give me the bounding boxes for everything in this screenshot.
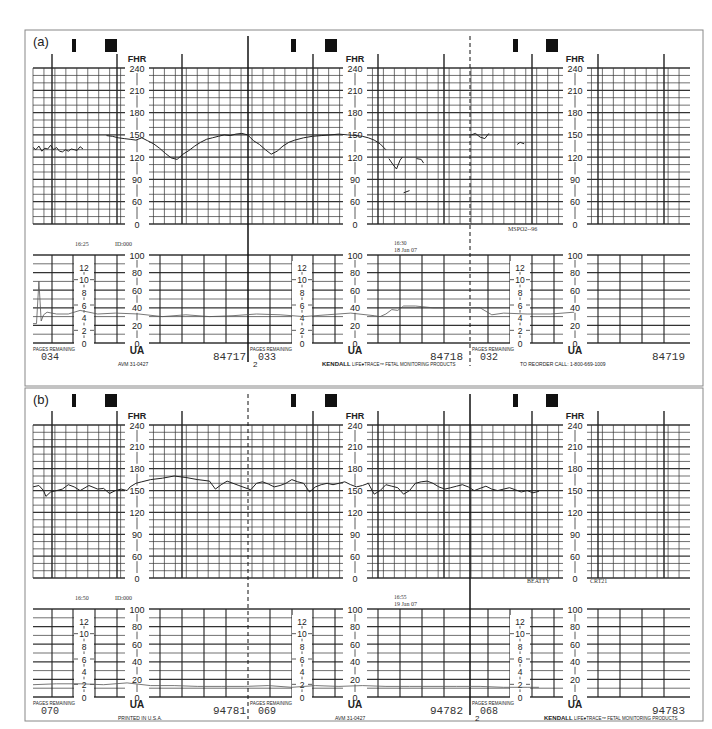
svg-text:150: 150	[567, 486, 582, 496]
event-marker-block	[513, 39, 518, 52]
svg-text:UA: UA	[130, 345, 144, 356]
svg-text:0: 0	[134, 220, 139, 230]
svg-text:60: 60	[350, 286, 360, 296]
svg-text:4: 4	[82, 667, 87, 677]
ua-axis-labels: 100806040200UA	[563, 604, 587, 710]
svg-text:AVM 31-0427: AVM 31-0427	[335, 715, 365, 721]
time-stamp-2: 16:30	[394, 240, 407, 246]
svg-text:40: 40	[570, 657, 580, 667]
svg-text:LIFE♥TRACE™ FETAL MONITORING P: LIFE♥TRACE™ FETAL MONITORING PRODUCTS	[352, 362, 456, 367]
svg-text:KENDALL: KENDALL	[322, 361, 351, 367]
svg-text:60: 60	[132, 197, 142, 207]
beatty-note: BEATTY	[527, 578, 551, 584]
svg-text:AVM 31-0427: AVM 31-0427	[118, 361, 148, 367]
event-marker-block	[325, 39, 337, 52]
svg-text:90: 90	[132, 175, 142, 185]
ua-axis-labels: 100806040200UA	[343, 604, 367, 710]
svg-text:150: 150	[567, 130, 582, 140]
time-stamp-2: 16:55	[394, 594, 407, 600]
svg-text:12: 12	[297, 263, 307, 273]
svg-text:6: 6	[300, 301, 305, 311]
svg-text:UA: UA	[348, 699, 362, 710]
svg-text:12: 12	[79, 263, 89, 273]
svg-text:0: 0	[572, 574, 577, 584]
svg-text:0: 0	[352, 220, 357, 230]
svg-text:10: 10	[79, 275, 89, 285]
svg-text:0: 0	[518, 339, 523, 349]
svg-text:120: 120	[129, 153, 144, 163]
svg-text:60: 60	[570, 552, 580, 562]
svg-text:0: 0	[572, 220, 577, 230]
svg-text:84717: 84717	[213, 351, 246, 363]
svg-text:068: 068	[480, 706, 498, 717]
time-stamp: 16:50	[75, 595, 89, 601]
svg-text:180: 180	[129, 464, 144, 474]
svg-text:0: 0	[82, 693, 87, 703]
svg-text:8: 8	[82, 288, 87, 298]
svg-text:FHR: FHR	[346, 54, 365, 64]
svg-text:90: 90	[132, 530, 142, 540]
svg-text:240: 240	[347, 421, 362, 431]
svg-text:0: 0	[518, 693, 523, 703]
svg-text:FHR: FHR	[566, 411, 585, 421]
svg-text:033: 033	[258, 352, 276, 363]
svg-text:210: 210	[347, 86, 362, 96]
svg-text:8: 8	[300, 642, 305, 652]
svg-text:40: 40	[570, 303, 580, 313]
ua-axis-labels: 100806040200UA	[125, 250, 149, 356]
svg-text:2: 2	[300, 680, 305, 690]
fhr-axis-labels: FHR24021018015012090600	[563, 411, 587, 584]
svg-text:4: 4	[518, 313, 523, 323]
svg-text:120: 120	[567, 508, 582, 518]
svg-text:10: 10	[515, 629, 525, 639]
id-stamp: ID:000	[115, 595, 132, 601]
svg-text:12: 12	[79, 617, 89, 627]
svg-text:150: 150	[129, 486, 144, 496]
date-stamp: 18 Jan 07	[394, 247, 417, 253]
svg-text:PRINTED IN U.S.A.: PRINTED IN U.S.A.	[118, 715, 162, 721]
svg-text:60: 60	[132, 552, 142, 562]
svg-text:8: 8	[518, 288, 523, 298]
event-marker-block	[105, 394, 117, 407]
svg-text:UA: UA	[568, 699, 582, 710]
svg-text:2: 2	[518, 326, 523, 336]
svg-text:FHR: FHR	[346, 411, 365, 421]
svg-text:210: 210	[347, 442, 362, 452]
svg-text:210: 210	[567, 86, 582, 96]
svg-text:150: 150	[347, 486, 362, 496]
svg-text:034: 034	[41, 352, 59, 363]
mmhg-scale-labels: 121086420	[292, 615, 312, 703]
spo2-note: MSPO2--96	[508, 226, 537, 232]
svg-text:60: 60	[570, 197, 580, 207]
svg-text:100: 100	[347, 605, 362, 615]
svg-text:100: 100	[129, 251, 144, 261]
svg-text:180: 180	[567, 464, 582, 474]
mmhg-scale-labels: 121086420	[74, 261, 94, 349]
svg-text:0: 0	[300, 693, 305, 703]
svg-text:0: 0	[82, 339, 87, 349]
date-stamp: 19 Jan 07	[394, 601, 417, 607]
svg-text:TO REORDER CALL: 1-800-669-100: TO REORDER CALL: 1-800-669-1009	[520, 361, 606, 367]
fhr-axis-labels: FHR24021018015012090600	[343, 54, 367, 230]
svg-text:100: 100	[567, 605, 582, 615]
svg-text:210: 210	[129, 86, 144, 96]
svg-text:2: 2	[82, 680, 87, 690]
svg-text:2: 2	[253, 360, 258, 369]
mmhg-scale-labels: 121086420	[510, 261, 530, 349]
svg-text:8: 8	[82, 642, 87, 652]
svg-text:2: 2	[82, 326, 87, 336]
svg-text:2: 2	[300, 326, 305, 336]
svg-text:240: 240	[347, 64, 362, 74]
event-marker-block	[546, 39, 558, 52]
svg-text:80: 80	[570, 268, 580, 278]
svg-text:070: 070	[41, 706, 59, 717]
svg-text:60: 60	[132, 640, 142, 650]
fhr-axis-labels: FHR24021018015012090600	[563, 54, 587, 230]
svg-text:4: 4	[518, 667, 523, 677]
svg-text:240: 240	[129, 64, 144, 74]
svg-text:120: 120	[567, 153, 582, 163]
svg-text:180: 180	[347, 108, 362, 118]
ctg-figure: (a)FHR24021018015012090600FHR24021018015…	[0, 0, 712, 729]
svg-text:90: 90	[350, 175, 360, 185]
event-marker-block	[513, 394, 518, 407]
